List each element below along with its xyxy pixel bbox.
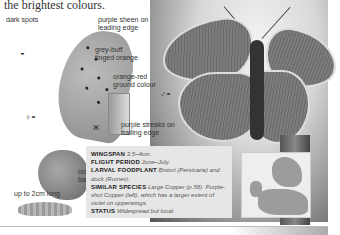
similar-row: SIMILAR SPECIES Large Copper (p.58). Pur… xyxy=(91,183,227,208)
scandinavia xyxy=(272,157,302,187)
label-orange-red: orange-red ground colour xyxy=(113,73,157,89)
distribution-map xyxy=(241,152,311,218)
intro-text: the brightest colours. xyxy=(4,0,105,13)
wingspan-label: WINGSPAN xyxy=(91,151,125,157)
similar-label: SIMILAR SPECIES xyxy=(91,184,146,190)
label-purple-sheen: purple sheen on leading edge xyxy=(98,16,156,32)
mini-butterfly-icon: ж xyxy=(93,122,99,132)
species-info-box: WINGSPAN 3.5–4cm. FLIGHT PERIOD June–Jul… xyxy=(86,146,232,218)
flight-value: June–July. xyxy=(142,159,170,165)
spot xyxy=(85,86,88,89)
page-bottom-strip xyxy=(0,227,328,235)
mainland-europe xyxy=(258,189,308,215)
status-row: STATUS Widespread but local. xyxy=(91,207,227,215)
hindwing-left xyxy=(178,72,260,142)
label-grey-buff: grey-buff tinged orange xyxy=(95,46,143,62)
female-symbol-icon: ♀◓ xyxy=(25,113,36,122)
foodplant-row: LARVAL FOODPLANT Bistort (Persicaria) an… xyxy=(91,166,227,182)
status-label: STATUS xyxy=(91,208,115,214)
male-female-symbol-icon: ♂◓ xyxy=(160,90,171,99)
spot xyxy=(105,88,108,91)
spot xyxy=(97,101,100,104)
spot xyxy=(97,76,100,79)
foodplant-label: LARVAL FOODPLANT xyxy=(91,167,157,173)
spot xyxy=(86,46,89,49)
label-dark-spots: dark spots xyxy=(6,16,38,24)
wingspan-row: WINGSPAN 3.5–4cm. xyxy=(91,150,227,158)
underside-symbol-icon: ◒ xyxy=(20,48,25,57)
spot xyxy=(80,67,83,70)
butterfly-body xyxy=(250,40,264,140)
label-purple-streaks: purple streaks on trailing edge xyxy=(121,121,177,137)
flight-label: FLIGHT PERIOD xyxy=(91,159,140,165)
wingspan-value: 3.5–4cm. xyxy=(127,151,152,157)
flight-row: FLIGHT PERIOD June–July. xyxy=(91,158,227,166)
label-larva-length: up to 2cm long xyxy=(14,190,60,198)
larva-illustration xyxy=(18,202,72,216)
status-value: Widespread but local. xyxy=(117,208,175,214)
